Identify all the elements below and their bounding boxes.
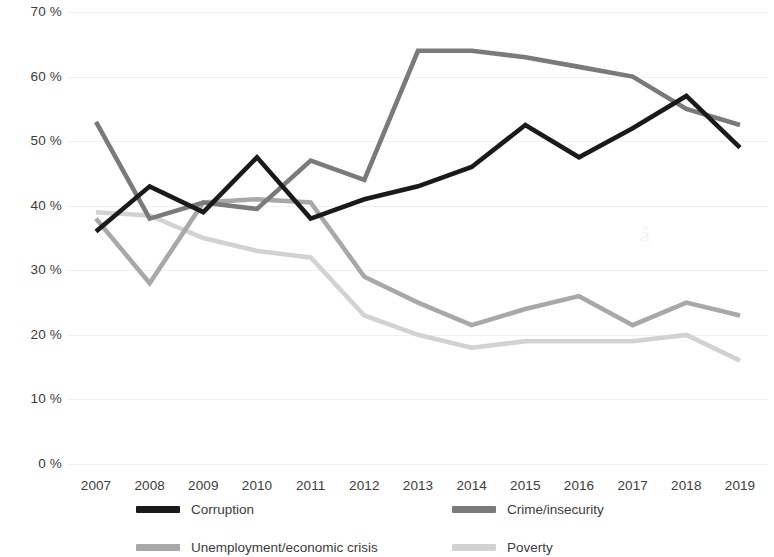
series-line [96,199,740,325]
x-axis-tick-label: 2013 [403,478,433,493]
x-axis-tick-label: 2008 [134,478,164,493]
legend-label: Unemployment/economic crisis [191,540,378,555]
legend-item[interactable]: Unemployment/economic crisis [136,540,378,555]
legend-item[interactable]: Poverty [452,540,553,555]
y-axis-tick-label: 10 % [0,391,62,406]
plot-area: 0 %10 %20 %30 %40 %50 %60 %70 % 20072008… [68,12,768,464]
x-axis-tick-label: 2019 [725,478,755,493]
legend-swatch-icon [452,544,496,551]
y-axis-tick-label: 70 % [0,4,62,19]
gridline [68,464,768,465]
legend-label: Corruption [191,502,254,517]
legend-swatch-icon [136,544,180,551]
y-axis-tick-label: 60 % [0,69,62,84]
y-axis-tick-label: 50 % [0,133,62,148]
x-axis-tick-label: 2007 [81,478,111,493]
x-axis-tick-label: 2009 [188,478,218,493]
x-axis-tick-label: 2012 [349,478,379,493]
x-axis-tick-label: 2017 [617,478,647,493]
x-axis-tick-label: 2011 [296,478,325,493]
legend-label: Poverty [507,540,553,555]
x-axis-tick-label: 2014 [456,478,486,493]
x-axis-tick-label: 2016 [564,478,594,493]
x-axis-tick-label: 2018 [671,478,701,493]
chart-legend: CorruptionCrime/insecurityUnemployment/e… [0,496,774,557]
legend-swatch-icon [452,506,496,513]
y-axis-tick-label: 0 % [0,456,62,471]
legend-label: Crime/insecurity [507,502,604,517]
series-line [96,51,740,219]
series-lines [68,12,768,464]
x-axis-tick-label: 2010 [242,478,272,493]
watermark-artifact: å [640,222,650,248]
legend-item[interactable]: Corruption [136,502,254,517]
y-axis-tick-label: 20 % [0,327,62,342]
x-axis-tick-label: 2015 [510,478,540,493]
legend-swatch-icon [136,506,180,513]
legend-item[interactable]: Crime/insecurity [452,502,604,517]
line-chart: 0 %10 %20 %30 %40 %50 %60 %70 % 20072008… [0,0,774,557]
series-line [96,96,740,232]
y-axis-tick-label: 40 % [0,198,62,213]
y-axis-tick-label: 30 % [0,262,62,277]
